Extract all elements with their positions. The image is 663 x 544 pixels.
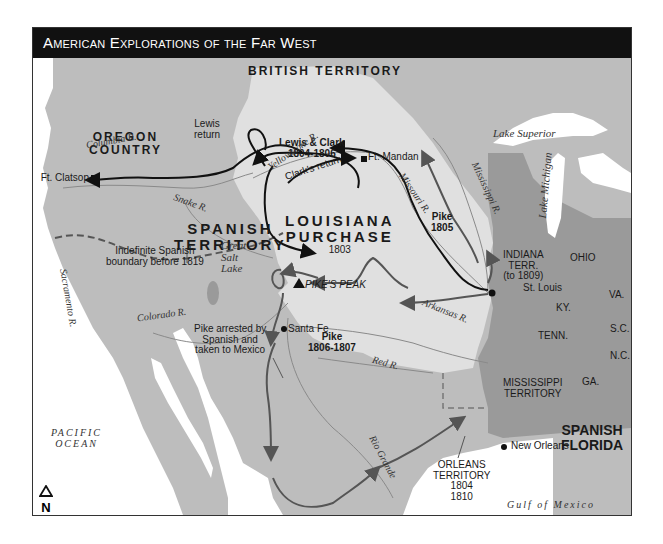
label-ft-mandan: Ft. Mandan — [368, 152, 419, 163]
label-lake-superior: Lake Superior — [493, 128, 556, 140]
label-spanish-boundary: Indefinite Spanish boundary before 1819 — [106, 246, 204, 267]
label-louisiana-year: 1803 — [285, 245, 395, 256]
label-louisiana-line2: PURCHASE — [285, 229, 395, 245]
label-lewis-return: Lewis return — [194, 119, 220, 140]
label-pacific-line2: OCEAN — [51, 439, 102, 450]
label-orleans-line1: ORLEANS — [433, 460, 490, 471]
label-state-va: VA. — [609, 290, 624, 301]
ft-clatsop-marker — [91, 175, 97, 181]
label-gsl-line1: Great — [221, 240, 246, 252]
label-indiana-line3: (to 1809) — [503, 271, 544, 282]
label-indiana-territory: INDIANA TERR. (to 1809) — [503, 250, 544, 282]
label-arrested-line1: Pike arrested by — [194, 324, 266, 335]
ft-mandan-marker — [361, 156, 367, 162]
label-pacific-line1: PACIFIC — [51, 428, 102, 439]
compass: N — [39, 483, 53, 514]
new-orleans-marker — [501, 444, 507, 450]
label-pike-1806: Pike 1806-1807 — [308, 332, 356, 353]
label-state-tenn: TENN. — [538, 331, 568, 342]
label-pike-1805: Pike 1805 — [431, 212, 453, 233]
label-gulf-of-mexico: Gulf of Mexico — [507, 500, 595, 511]
label-louisiana-line1: LOUISIANA — [285, 213, 395, 229]
label-orleans-line3: 1804 — [433, 481, 490, 492]
label-gsl-line3: Lake — [221, 263, 246, 275]
santa-fe-marker — [281, 326, 287, 332]
label-mississippi-line1: MISSISSIPPI — [503, 378, 562, 389]
map-frame: American Explorations of the Far West — [32, 27, 632, 516]
label-mississippi-line2: TERRITORY — [503, 389, 562, 400]
label-pike-1805-line1: Pike — [431, 212, 453, 223]
label-st-louis: St. Louis — [523, 283, 562, 294]
label-boundary-line1: Indefinite Spanish — [106, 246, 204, 257]
label-boundary-line2: boundary before 1819 — [106, 257, 204, 268]
compass-n-label: N — [39, 501, 53, 514]
label-arrested-line3: taken to Mexico — [194, 345, 266, 356]
label-british-territory: BRITISH TERRITORY — [248, 65, 402, 78]
map-title: American Explorations of the Far West — [33, 28, 631, 58]
label-orleans-line4: 1810 — [433, 492, 490, 503]
label-pike-1805-line2: 1805 — [431, 223, 453, 234]
label-pike-1806-line2: 1806-1807 — [308, 343, 356, 354]
label-spanish-florida: SPANISH FLORIDA — [561, 423, 623, 452]
label-florida-line1: SPANISH — [561, 423, 623, 438]
label-new-orleans: New Orleans — [511, 441, 569, 452]
label-ft-clatsop: Ft. Clatsop — [32, 173, 89, 184]
label-state-ga: GA. — [582, 377, 599, 388]
north-arrow-icon — [39, 485, 53, 497]
label-pike-1806-line1: Pike — [308, 332, 356, 343]
label-orleans-territory: ORLEANS TERRITORY 1804 1810 — [433, 460, 490, 502]
label-spanish-line1: SPANISH — [174, 221, 287, 237]
label-pike-arrested: Pike arrested by Spanish and taken to Me… — [194, 324, 266, 356]
label-florida-line2: FLORIDA — [561, 438, 623, 453]
label-state-ky: KY. — [556, 303, 571, 314]
label-state-sc: S.C. — [610, 324, 629, 335]
great-salt-lake-shape — [207, 281, 219, 305]
label-state-nc: N.C. — [610, 351, 630, 362]
label-pacific-ocean: PACIFIC OCEAN — [51, 428, 102, 449]
label-louisiana-purchase: LOUISIANA PURCHASE 1803 — [285, 213, 395, 255]
label-lewis-return-line1: Lewis — [194, 119, 220, 130]
label-pikes-peak: PIKE'S PEAK — [305, 280, 366, 291]
label-lewis-return-line2: return — [194, 130, 220, 141]
label-mississippi-territory: MISSISSIPPI TERRITORY — [503, 378, 562, 399]
label-indiana-line1: INDIANA — [503, 250, 544, 261]
st-louis-marker — [489, 290, 496, 297]
label-great-salt-lake: Great Salt Lake — [221, 240, 246, 275]
label-state-ohio: OHIO — [570, 253, 596, 264]
